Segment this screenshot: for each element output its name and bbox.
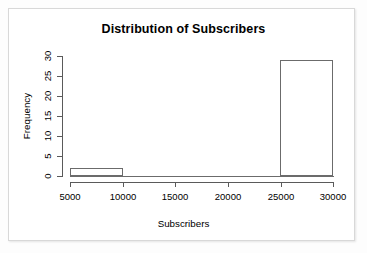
x-tick-mark [175,182,176,187]
histogram-bar [280,60,333,176]
x-axis-title: Subscribers [0,218,367,229]
y-tick-mark [57,156,62,157]
x-tick-label: 5000 [59,192,80,202]
x-tick-mark [70,182,71,187]
y-tick-mark [57,96,62,97]
y-axis-line [62,56,63,177]
y-tick-label: 0 [43,173,53,178]
y-tick-mark [57,56,62,57]
x-tick-label: 15000 [162,192,188,202]
x-tick-mark [281,182,282,187]
x-tick-mark [123,182,124,187]
histogram-figure: Distribution of Subscribers Frequency Su… [0,0,367,253]
x-axis-line [70,182,334,183]
y-tick-mark [57,76,62,77]
x-tick-label: 30000 [320,192,346,202]
y-tick-label: 10 [43,131,53,142]
screenshot-root: Distribution of Subscribers Frequency Su… [0,0,367,253]
x-tick-mark [228,182,229,187]
chart-title: Distribution of Subscribers [0,22,367,36]
x-tick-mark [333,182,334,187]
x-tick-label: 25000 [268,192,294,202]
bar-baseline [70,176,334,177]
y-tick-label: 20 [43,91,53,102]
y-tick-label: 15 [43,111,53,122]
y-axis-title: Frequency [21,93,32,139]
y-tick-label: 5 [43,153,53,158]
y-tick-mark [57,176,62,177]
y-tick-label: 25 [43,71,53,82]
x-tick-label: 10000 [110,192,136,202]
y-tick-mark [57,136,62,137]
histogram-bar [70,168,123,176]
y-tick-mark [57,116,62,117]
y-tick-label: 30 [43,51,53,62]
x-tick-label: 20000 [215,192,241,202]
